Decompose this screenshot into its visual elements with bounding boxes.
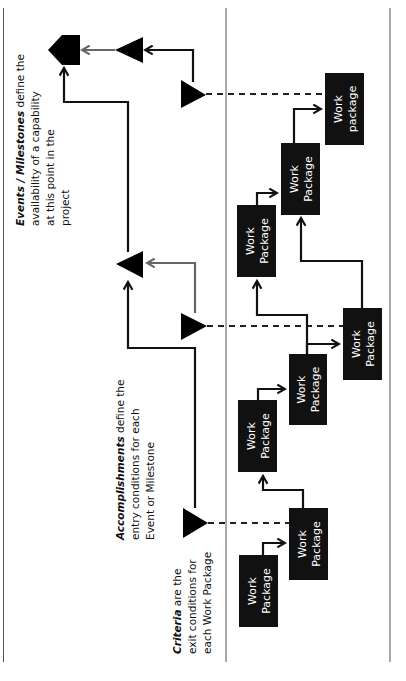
work-package-4: Work Package: [343, 308, 382, 380]
accomplishment-top-connector: [145, 50, 193, 82]
work-package-6: Work Package: [238, 400, 277, 472]
wp5-to-wp4-connector: [307, 344, 339, 354]
accomplishment-triangle-bottom-icon: [183, 508, 208, 538]
events-line2: availability of a capability: [29, 91, 41, 226]
accomplishment-middle-connector: [147, 263, 195, 313]
svg-text:Work: Work: [288, 164, 301, 192]
svg-text:Criteria are the: Criteria are the: [171, 569, 183, 654]
svg-text:Work: Work: [350, 329, 363, 357]
work-package-7: Work Package: [289, 508, 328, 580]
work-package-2: Work Package: [281, 143, 320, 215]
wp8-to-wp7-connector: [263, 543, 285, 555]
svg-text:package: package: [346, 86, 359, 133]
criteria-line3: each Work Package: [201, 552, 213, 654]
criteria-line2: exit conditions for: [186, 559, 198, 654]
svg-text:Package: Package: [258, 218, 271, 264]
svg-text:Accomplishments define the: Accomplishments define the: [114, 380, 126, 541]
svg-text:Package: Package: [259, 413, 272, 459]
wp2-to-wp1-connector: [294, 109, 321, 143]
wp7-to-wp6-connector: [263, 476, 303, 508]
svg-text:Package: Package: [309, 366, 322, 412]
svg-text:Work: Work: [244, 226, 257, 254]
event-triangle-top-icon: [115, 37, 143, 63]
svg-text:Package: Package: [302, 156, 315, 202]
svg-text:Work: Work: [295, 375, 308, 403]
accomplishment-triangle-middle-icon: [181, 313, 207, 340]
events-emphasis: Events / Milestones: [14, 111, 26, 226]
wp5-to-wp3-connector: [257, 281, 307, 354]
work-package-8: Work Package: [239, 555, 278, 627]
accomplishments-line2: entry conditions for each: [129, 408, 141, 540]
svg-text:Package: Package: [310, 521, 323, 567]
accomplishment-triangle-top-icon: [181, 80, 206, 108]
middle-event-to-milestone-connector: [64, 68, 128, 252]
svg-text:Package: Package: [260, 568, 273, 614]
svg-text:Work: Work: [296, 529, 309, 557]
wp4-to-wp2-connector: [301, 218, 362, 308]
svg-text:Work: Work: [332, 94, 345, 122]
svg-text:Work: Work: [246, 576, 259, 604]
criteria-emphasis: Criteria: [171, 610, 183, 655]
event-triangle-middle-icon: [116, 251, 143, 278]
svg-text:Events / Milestones define the: Events / Milestones define the: [14, 54, 26, 226]
criteria-note: Criteria are the exit conditions for eac…: [171, 552, 213, 654]
work-package-5: Work Package: [289, 354, 327, 425]
wp3-to-wp2-connector: [257, 193, 277, 205]
events-line3: at this point in the: [44, 129, 56, 226]
svg-text:Work: Work: [245, 421, 258, 449]
work-package-3: Work Package: [237, 205, 276, 277]
accomplishments-note: Accomplishments define the entry conditi…: [114, 380, 156, 541]
svg-text:Package: Package: [364, 321, 377, 367]
events-line4: project: [59, 190, 71, 226]
accomplishments-line3: Event or Milestone: [144, 442, 156, 540]
wp6-to-wp5-connector: [258, 389, 285, 400]
ims-diagram: Events / Milestones define the availabil…: [0, 0, 406, 681]
accomplishments-emphasis: Accomplishments: [114, 436, 126, 541]
events-milestones-note: Events / Milestones define the availabil…: [14, 54, 71, 226]
final-milestone-icon: [48, 35, 80, 65]
work-package-1: Work package: [325, 73, 364, 145]
